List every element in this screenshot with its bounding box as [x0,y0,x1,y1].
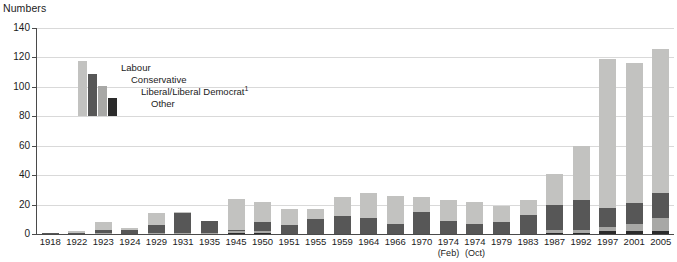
x-tick-label-year: 1992 [571,236,592,247]
x-tick-label-4: 1929 [143,236,170,248]
x-tick-label-year: 2005 [650,236,671,247]
x-tick-label-year: 1974 [464,236,485,247]
bar-segment-other [626,231,643,234]
bar-1959 [334,197,351,234]
x-tick-label-year: 1945 [225,236,246,247]
bar-1974-Feb [440,200,457,234]
y-tick-label-60: 60 [19,141,30,151]
legend-swatch-other [108,98,117,116]
bar-segment-conservative [626,203,643,224]
bar-1979 [493,206,510,234]
bar-1951 [281,209,298,234]
bar-segment-labour [360,193,377,218]
bar-segment-conservative [466,224,483,234]
x-tick-label-year: 1964 [358,236,379,247]
bar-segment-labour [652,49,669,193]
bar-segment-conservative [201,221,218,233]
bar-1983 [520,200,537,234]
x-tick-label-year: 1974 [438,236,459,247]
y-tick-label-100: 100 [13,82,30,92]
bar-2001 [626,63,643,234]
bar-segment-conservative [68,233,85,234]
x-tick-label-5: 1931 [170,236,197,248]
x-tick-label-year: 1997 [597,236,618,247]
x-tick-label-year: 1924 [119,236,140,247]
x-tick-label-19: 1987 [541,236,568,248]
legend-swatch-conservative [88,74,97,116]
bar-segment-other [228,233,245,234]
bar-segment-conservative [307,219,324,234]
x-tick-label-10: 1955 [302,236,329,248]
x-tick-label-year: 1922 [66,236,87,247]
x-tick-label-3: 1924 [117,236,144,248]
x-tick-label-6: 1935 [196,236,223,248]
bar-segment-conservative [493,222,510,234]
y-tick-label-120: 120 [13,52,30,62]
x-tick-label-18: 1983 [515,236,542,248]
bar-segment-conservative [652,193,669,218]
x-tick-label-14: 1970 [409,236,436,248]
bar-segment-other [546,233,563,234]
bar-segment-other [573,233,590,234]
x-tick-label-21: 1997 [594,236,621,248]
bar-segment-liberal [148,233,165,234]
bar-1966 [387,196,404,234]
x-tick-label-9: 1951 [276,236,303,248]
x-tick-label-0: 1918 [37,236,64,248]
bar-segment-conservative [599,208,616,227]
y-axis: 020406080100120140 [0,28,37,234]
bar-segment-conservative [254,222,271,231]
bar-segment-conservative [520,215,537,234]
x-tick-label-year: 1959 [332,236,353,247]
x-tick-label-16: 1974(Oct) [462,236,489,259]
bar-segment-conservative [281,225,298,234]
x-tick-label-23: 2005 [647,236,674,248]
bar-segment-labour [440,200,457,221]
bar-segment-conservative [546,205,563,230]
bar-segment-conservative [148,225,165,232]
x-tick-label-year: 1951 [279,236,300,247]
legend-swatch-group [78,61,117,116]
bar-segment-labour [148,213,165,225]
bar-1929 [148,213,165,234]
legend-label-labour: Labour [121,63,151,73]
bar-segment-conservative [573,200,590,229]
x-tick-label-20: 1992 [568,236,595,248]
bar-segment-labour [546,174,563,205]
bar-1935 [201,221,218,234]
x-tick-label-year: 1983 [517,236,538,247]
bar-segment-labour [599,59,616,208]
bar-segment-liberal [626,224,643,231]
bar-segment-liberal [201,233,218,234]
y-tick-label-140: 140 [13,23,30,33]
x-tick-label-year: 1979 [491,236,512,247]
bar-1922 [68,231,85,234]
bar-series-layer [37,28,674,234]
x-tick-label-15: 1974(Feb) [435,236,462,259]
bar-segment-conservative [387,224,404,234]
y-axis-title: Numbers [3,2,46,14]
bar-segment-other [254,233,271,234]
bar-segment-labour [95,222,112,229]
bar-segment-conservative [121,230,138,234]
bar-1931 [174,212,191,234]
bar-segment-labour [413,197,430,212]
legend-label-liberal-text: Liberal/Liberal Democrat [141,86,245,97]
x-tick-label-8: 1950 [249,236,276,248]
y-tick-label-0: 0 [24,229,30,239]
bar-1945 [228,199,245,234]
bar-segment-conservative [174,213,191,232]
bar-segment-conservative [42,233,59,234]
bar-segment-other [599,231,616,234]
bar-1964 [360,193,377,234]
bar-segment-conservative [360,218,377,234]
x-tick-label-year: 1955 [305,236,326,247]
bar-1923 [95,222,112,234]
bar-segment-labour [626,63,643,203]
legend-label-liberal: Liberal/Liberal Democrat1 [141,87,248,97]
bar-1997 [599,59,616,234]
bar-segment-labour [493,206,510,222]
legend-label-other: Other [151,99,175,109]
bar-segment-conservative [413,212,430,234]
y-tick-label-80: 80 [19,111,30,121]
